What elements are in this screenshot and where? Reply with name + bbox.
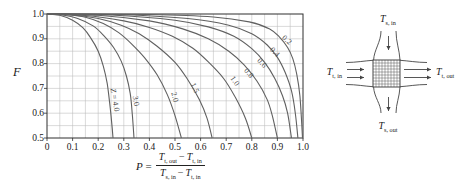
y-tick-label: 0.6 — [26, 108, 44, 119]
x-axis-formula: P = Tt, out−Tt, in Ts, in−Tt, in — [136, 151, 205, 180]
diagram-label-tube-out: Tt, out — [436, 66, 454, 79]
x-tick-label: 0.1 — [61, 142, 85, 153]
diagram-label-tube-in: Tt, in — [302, 66, 342, 79]
chart-and-diagram-svg — [0, 0, 475, 193]
x-tick-label: 0.9 — [265, 142, 289, 153]
x-tick-label: 1.0 — [291, 142, 315, 153]
formula-lhs: P = — [136, 160, 152, 172]
figure-canvas: F 1.00.90.80.70.60.5 00.10.20.30.40.50.6… — [0, 0, 475, 193]
x-tick-label: 0.3 — [112, 142, 136, 153]
x-tick-label: 0.8 — [240, 142, 264, 153]
y-axis-label: F — [13, 65, 21, 80]
y-tick-label: 0.9 — [26, 33, 44, 44]
y-tick-label: 1.0 — [26, 9, 44, 20]
curve-label-3.0: 3.0 — [131, 95, 142, 107]
y-tick-label: 0.8 — [26, 58, 44, 69]
x-tick-label: 0.7 — [214, 142, 238, 153]
diagram-label-shell-out: Ts, out — [379, 120, 398, 133]
formula-equals: = — [145, 160, 151, 172]
y-tick-label: 0.7 — [26, 83, 44, 94]
x-tick-label: 0.2 — [86, 142, 110, 153]
x-tick-label: 0 — [35, 142, 59, 153]
diagram-label-shell-in: Ts, in — [380, 13, 396, 26]
formula-denominator: Ts, in−Tt, in — [160, 166, 201, 180]
formula-numerator: Tt, out−Tt, in — [156, 151, 205, 166]
formula-fraction: Tt, out−Tt, in Ts, in−Tt, in — [156, 151, 205, 180]
